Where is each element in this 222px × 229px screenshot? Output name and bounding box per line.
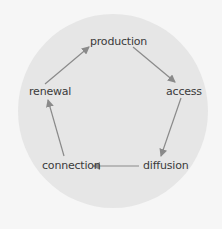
- cycle-diagram: production access diffusion connection r…: [0, 0, 222, 229]
- node-access: access: [166, 85, 202, 98]
- node-renewal: renewal: [29, 85, 71, 98]
- arrow-access-to-diffusion: [161, 98, 181, 156]
- node-diffusion: diffusion: [143, 159, 188, 172]
- node-production: production: [90, 35, 147, 48]
- arrow-production-to-access: [133, 47, 175, 82]
- arrow-renewal-to-production: [45, 47, 89, 84]
- arrow-connection-to-renewal: [48, 100, 64, 156]
- node-connection: connection: [42, 159, 101, 172]
